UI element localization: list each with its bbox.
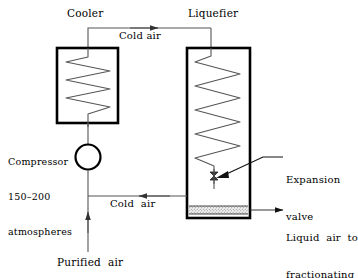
label-compressor-line3: atmospheres [8,226,72,238]
liquid-air-layer [189,206,248,214]
label-expansion-line1: Expansion [286,174,340,186]
cooler-coil [66,48,110,127]
label-liquid-air-output: Liquid air to fractionating column [286,208,358,278]
label-cold-air-bottom: Cold air [110,198,155,210]
label-compressor: Compressor 150–200 atmospheres [8,133,72,260]
compressor-unit [76,123,101,196]
liquefier-vessel [187,48,250,218]
diagram-canvas: Cooler Liquefier Cold air Cold air Purif… [0,0,358,278]
compressor-circle [76,145,101,170]
label-liquid-line1: Liquid air to [286,232,358,244]
label-liquefier-title: Liquefier [188,7,238,20]
label-cooler-title: Cooler [67,7,103,20]
label-compressor-line2: 150–200 [8,191,72,203]
label-cold-air-top: Cold air [119,30,161,42]
expansion-valve-symbol [210,169,218,184]
liquefier-coil [195,48,240,189]
label-liquid-line2: fractionating [286,269,358,278]
cooler-vessel [57,48,118,123]
label-compressor-line1: Compressor [8,156,72,168]
